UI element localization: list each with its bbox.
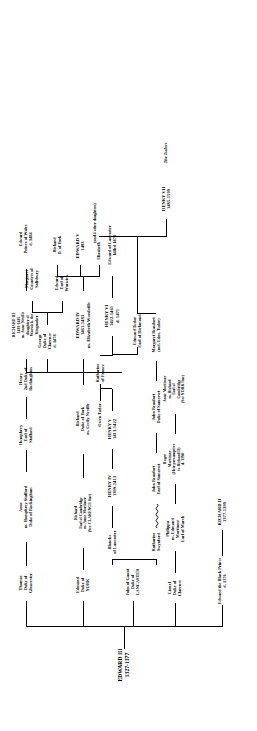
node-henry6: HENRY VI 1422-1461 d. 1471	[104, 305, 120, 328]
to-edward4	[83, 359, 84, 373]
node-richard-cambridge: Richard Earl of Cambridge m. Anne Mortim…	[74, 494, 92, 532]
node-john-beaufort: John Beaufort Earl of Somerset	[151, 463, 161, 494]
margaret-to-henry7	[137, 313, 156, 314]
edward4-children-stem	[83, 277, 84, 291]
node-other-daughters: (and 4 other daughters)	[93, 203, 98, 243]
henry6-drop	[100, 355, 112, 356]
node-katharine-of-france: Katharine of France	[95, 363, 105, 382]
node-edward-warwick: Edward Earl of Warwick	[54, 275, 69, 292]
node-richard-york-line-2: m. Cecily Neville	[86, 403, 91, 434]
to-edward5	[80, 265, 81, 277]
node-owen-tudor-line-0: Owen Tudor	[97, 403, 102, 426]
node-edmund-tudor: Edmund Tudor Earl of Richmond	[132, 314, 142, 347]
node-richard-duke-of-york: Richard Duke of York m. Cecily Neville	[75, 403, 90, 434]
node-thomas-gloucester: Thomas Duke of Gloucester	[18, 573, 33, 593]
node-richard3-line-0: RICHARD III	[12, 312, 17, 339]
node-henry5: HENRY V 1413-1422	[107, 419, 118, 440]
roger-to-anne-mortimer	[175, 414, 176, 434]
node-margaret-beaufort: Margaret Beaufort (md. Edm. Tudor)	[151, 317, 161, 352]
node-henry-buckingham: Henry 2nd Duke of Buckingham	[18, 367, 33, 391]
node-roger-mortimer: Roger Mortimer (Heir presumptive to Rich…	[163, 444, 186, 475]
katharine-fr-joiner	[100, 388, 112, 389]
node-thomas-glouc-line-2: Gloucester	[29, 573, 34, 593]
owen-to-edmund-tudor	[112, 354, 137, 355]
node-edmund-tudor-line-1: Earl of Richmond	[137, 314, 142, 347]
humphrey-to-henry-bucks	[26, 397, 27, 419]
node-richard-d-of-york: Richard D. of York	[52, 235, 62, 254]
blanche-to-henry4	[112, 506, 113, 528]
node-richard-dy-line-1: D. of York	[57, 235, 62, 254]
rotated-chart-wrapper: EDWARD III 1327-1377 Edward the Black Pr…	[0, 0, 257, 731]
node-edward-warwick-line-2: Warwick	[65, 275, 70, 292]
node-lionel-line-2: Clarence	[178, 580, 183, 597]
node-john-beaufort-2: John Beaufort Duke of Somerset	[151, 391, 161, 424]
node-philippa-line-3: Earl of March	[180, 516, 185, 542]
node-edward3: EDWARD III 1327-1377	[117, 649, 130, 682]
node-richard3-line-5: Kingmaker	[35, 312, 40, 339]
to-elizabeth	[99, 265, 100, 277]
node-edward-of-lancaster: Edward of Lancaster killed 1471	[107, 225, 117, 264]
john-beaufort-to-son	[156, 433, 157, 453]
node-black-prince-line-1: d. 1376	[222, 558, 227, 605]
york-children-splitter	[26, 372, 122, 373]
richard3-to-edward-pow	[26, 269, 27, 291]
lionel-to-philippa	[175, 551, 176, 573]
edmund-tudor-stub	[137, 347, 138, 355]
node-katharine-sw-line-1: Swynford	[156, 532, 161, 551]
root-connector	[124, 627, 125, 649]
black-prince-to-richard2	[222, 530, 223, 556]
node-edward4-line-2: m. Elizabeth Woodville	[86, 302, 91, 348]
branch-lionel-line	[175, 603, 176, 627]
node-richard2-line-1: 1377-1399	[222, 499, 227, 526]
henry6-to-edward-lancaster	[112, 276, 113, 298]
node-lionel: Lionel Duke of Clarence	[167, 580, 182, 597]
node-katharine-fr-line-1: of France	[100, 363, 105, 382]
gaunt-to-blanche	[112, 559, 113, 565]
node-edward5: EDWARD V 1483	[75, 234, 86, 259]
node-henry5-line-1: 1413-1422	[112, 419, 117, 440]
node-elizabeth-of-york: Elizabeth	[96, 242, 101, 260]
node-blanche-line-1: of Lancaster	[112, 530, 117, 553]
gloucester-to-anne	[26, 542, 27, 566]
node-anne-mortimer-line-4: (See YORK line)	[182, 375, 187, 403]
edmund-margaret-to-henry7	[137, 237, 138, 314]
node-katharine-swynford: Katharine Swynford	[151, 532, 161, 551]
node-edward4: EDWARD IV 1461-1483 m. Elizabeth Woodvil…	[75, 302, 91, 348]
node-margaret-b-line-1: (md. Edm. Tudor)	[156, 317, 161, 352]
henry4-to-henry5	[112, 449, 113, 469]
node-anne-mortimer-line-0: Anne Mortimer	[163, 375, 168, 403]
gaunt-marriages-splitter	[112, 559, 156, 560]
node-richard3: RICHARD III 1483-1485 m. Anne Neville da…	[12, 312, 40, 339]
node-edward-prince-of-wales: Edward Prince of Wales d. 1484	[18, 225, 33, 254]
george-children-stem	[47, 313, 48, 325]
node-henry7: HENRY VII 1485-1509	[161, 187, 172, 211]
node-george-line-3: d. 1478	[52, 333, 57, 350]
node-henry4: HENRY IV 1399-1413	[107, 475, 118, 498]
node-gaunt-line-2: LANCASTER	[136, 569, 141, 596]
node-blanche: Blanche of Lancaster	[107, 530, 117, 553]
label-the-tudors-text: The Tudors	[163, 143, 168, 164]
node-anne-stafford: Anne m. Humphrey Stafford Duke of Buckin…	[18, 486, 33, 528]
owen-to-katharine-fr	[100, 389, 101, 401]
node-edmund-langley: Edmund Duke of YORK	[75, 577, 90, 593]
to-edward-warwick	[62, 301, 63, 313]
cambridge-to-richard-york	[83, 454, 84, 478]
node-richard2: RICHARD II 1377-1399	[217, 499, 228, 526]
philippa-to-roger	[175, 484, 176, 504]
node-margaret-salis-line-2: Salisbury	[35, 268, 40, 290]
node-henry4-line-1: 1399-1413	[112, 475, 117, 498]
node-other-daughters-line-0: (and 4 other daughters)	[93, 203, 98, 243]
henry7-connector	[166, 219, 167, 237]
node-john-beaufort2-line-1: Duke of Somerset	[156, 391, 161, 424]
beaufort-to-margaret	[156, 361, 157, 381]
branch-gloucester-line	[26, 601, 27, 627]
henry5-to-katharine-fr	[112, 389, 113, 411]
branch-black-prince-line	[222, 605, 223, 627]
to-henry6	[112, 336, 113, 356]
elizabeth-henry7-vert	[99, 236, 166, 237]
node-black-prince: Edward the Black Prince d. 1376	[217, 558, 227, 605]
node-edward3-line-0: EDWARD III	[117, 649, 124, 682]
node-edward-pow-line-2: d. 1484	[29, 225, 34, 254]
node-henry6-line-2: d. 1471	[115, 305, 120, 328]
family-tree-chart: EDWARD III 1327-1377 Edward the Black Pr…	[0, 0, 257, 731]
